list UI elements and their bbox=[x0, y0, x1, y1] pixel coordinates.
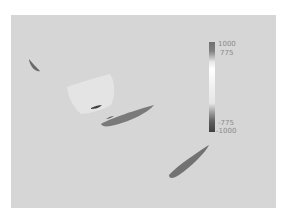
scan-image: 1000 775 -775 -1000 bbox=[11, 15, 276, 208]
light-patch bbox=[67, 74, 114, 114]
small-dark-streak-left bbox=[29, 59, 40, 71]
colorbar-label-upper: 775 bbox=[220, 50, 233, 57]
elongated-dark-region-lower-right bbox=[169, 145, 209, 178]
scan-overlay bbox=[11, 15, 276, 208]
colorbar-label-lower: -775 bbox=[218, 120, 234, 127]
colorbar-label-min: -1000 bbox=[216, 128, 236, 135]
colorbar bbox=[209, 42, 215, 132]
elongated-dark-region-center bbox=[101, 105, 154, 126]
colorbar-label-max: 1000 bbox=[218, 41, 236, 48]
